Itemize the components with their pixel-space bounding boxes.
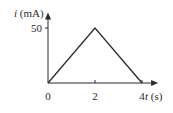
x-axis-label: t (s) <box>145 90 163 103</box>
axes <box>45 13 158 87</box>
x-tick-label: 0 <box>45 90 51 102</box>
y-axis-arrow-icon <box>45 13 51 20</box>
y-axis-label: i (mA) <box>14 7 44 20</box>
series <box>48 28 142 83</box>
chart: 02450 i (mA) t (s) <box>0 0 173 113</box>
x-tick-label: 2 <box>92 90 98 102</box>
series-line <box>48 28 142 83</box>
y-tick-label: 50 <box>31 22 43 34</box>
x-axis-label-unit: (s) <box>148 90 163 103</box>
y-axis-label-unit: (mA) <box>17 7 44 20</box>
x-axis-arrow-icon <box>151 80 158 86</box>
